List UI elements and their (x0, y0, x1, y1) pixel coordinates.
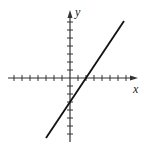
x-axis-arrow-icon (130, 76, 138, 81)
coordinate-plane: x y (0, 0, 149, 147)
x-axis-label: x (132, 82, 139, 96)
y-axis-arrow-icon (68, 10, 73, 18)
plotted-line (46, 21, 124, 138)
y-axis-label: y (74, 5, 81, 19)
